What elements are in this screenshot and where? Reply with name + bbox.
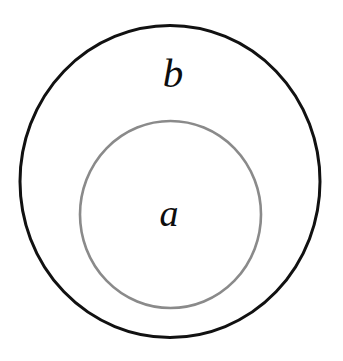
outer-set-label: b: [2, 53, 343, 94]
inner-set-label: a: [0, 194, 341, 232]
